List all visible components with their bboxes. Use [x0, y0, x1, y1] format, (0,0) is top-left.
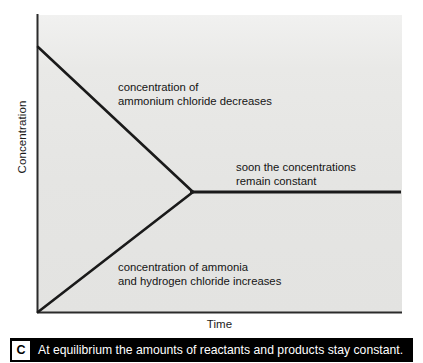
- annotation-concentrations-constant: soon the concentrations remain constant: [236, 160, 356, 189]
- chart-lines: [0, 0, 423, 363]
- figure-caption-text: At equilibrium the amounts of reactants …: [38, 343, 403, 357]
- annotation-line: soon the concentrations: [236, 160, 356, 174]
- annotation-line: and hydrogen chloride increases: [118, 274, 281, 288]
- annotation-line: ammonium chloride decreases: [118, 94, 272, 108]
- annotation-line: concentration of: [118, 80, 272, 94]
- figure-caption-bar: C At equilibrium the amounts of reactant…: [10, 338, 413, 362]
- annotation-reactant-decreases: concentration of ammonium chloride decre…: [118, 80, 272, 109]
- y-axis-label: Concentration: [16, 67, 28, 207]
- annotation-line: concentration of ammonia: [118, 260, 281, 274]
- equilibrium-concentration-figure: Concentration Time concentration of ammo…: [0, 0, 423, 363]
- figure-label-badge: C: [12, 341, 30, 360]
- annotation-product-increases: concentration of ammonia and hydrogen ch…: [118, 260, 281, 289]
- annotation-line: remain constant: [236, 174, 356, 188]
- x-axis-label: Time: [37, 318, 402, 330]
- reactant-concentration-line: [38, 47, 193, 192]
- product-concentration-line: [38, 192, 193, 312]
